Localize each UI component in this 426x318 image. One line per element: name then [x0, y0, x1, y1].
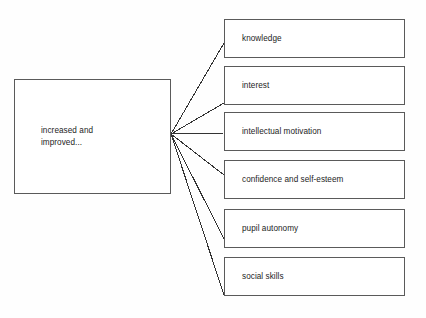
target-node-label-pupil-autonomy: pupil autonomy	[225, 223, 298, 235]
target-node-confidence-and-self-esteem[interactable]: confidence and self-esteem	[224, 160, 405, 199]
target-node-social-skills[interactable]: social skills	[224, 257, 405, 296]
target-node-label-knowledge: knowledge	[225, 33, 282, 45]
connector-line-intellectual-motivation	[171, 133, 224, 134]
target-node-pupil-autonomy[interactable]: pupil autonomy	[224, 209, 405, 248]
connector-line-interest	[171, 103, 224, 134]
target-node-knowledge[interactable]: knowledge	[224, 19, 405, 58]
diagram-canvas: increased and improved... knowledge inte…	[0, 0, 426, 318]
target-node-label-confidence-and-self-esteem: confidence and self-esteem	[225, 174, 343, 186]
connector-line-confidence-and-self-esteem	[171, 134, 224, 175]
source-node-label: increased and improved...	[15, 125, 93, 148]
connector-line-pupil-autonomy	[171, 134, 224, 239]
source-node-increased-and-improved[interactable]: increased and improved...	[14, 79, 171, 194]
target-node-label-intellectual-motivation: intellectual motivation	[225, 126, 321, 138]
target-node-interest[interactable]: interest	[224, 66, 405, 105]
connector-line-social-skills	[171, 134, 224, 295]
target-node-label-interest: interest	[225, 80, 269, 92]
target-node-intellectual-motivation[interactable]: intellectual motivation	[224, 112, 405, 151]
target-node-label-social-skills: social skills	[225, 271, 284, 283]
connector-line-knowledge	[171, 43, 224, 134]
